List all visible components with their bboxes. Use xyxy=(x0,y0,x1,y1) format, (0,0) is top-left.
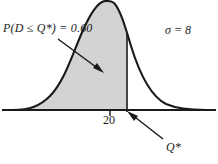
axis-tick-label-20: 20 xyxy=(103,114,115,126)
cutoff-label: Q* xyxy=(166,141,181,153)
probability-label: P(D ≤ Q*) = 0.60 xyxy=(3,22,93,34)
normal-distribution-figure: P(D ≤ Q*) = 0.60 σ = 8 20 Q* xyxy=(0,0,218,164)
cutoff-leader-arrow xyxy=(127,111,163,139)
shaded-area-left-of-cutoff xyxy=(12,1,127,110)
sigma-label: σ = 8 xyxy=(165,24,191,36)
